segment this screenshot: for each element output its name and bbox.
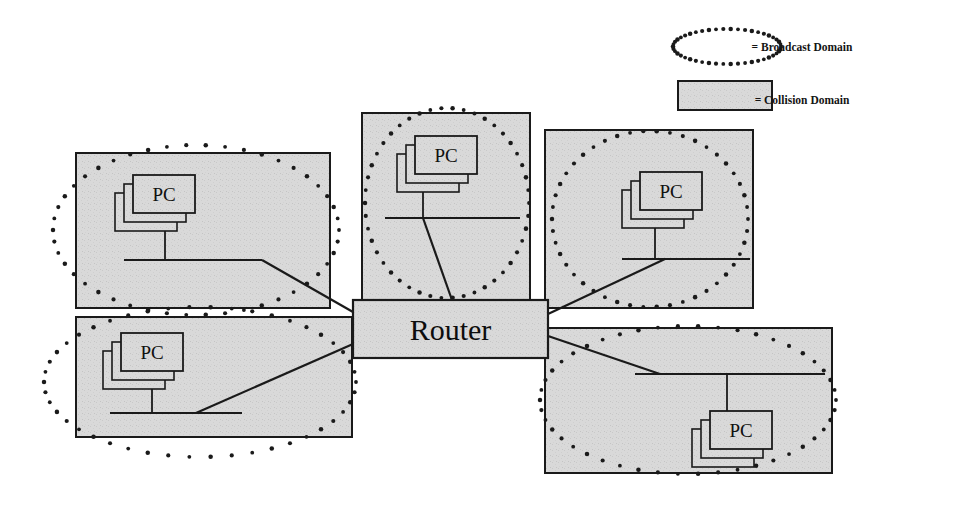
broadcast-domain-dot — [828, 418, 833, 423]
broadcast-domain-dot — [65, 341, 69, 345]
broadcast-domain-dot — [668, 131, 672, 135]
broadcast-domain-dot — [745, 205, 749, 209]
broadcast-domain-dot — [48, 400, 52, 404]
legend-item-label: = Broadcast Domain — [752, 41, 854, 53]
broadcast-domain-dot — [801, 351, 806, 356]
broadcast-domain-dot — [571, 351, 575, 355]
broadcast-domain-dot — [126, 447, 130, 451]
pc-label: PC — [659, 181, 682, 202]
broadcast-domain-dot — [745, 229, 749, 233]
broadcast-domain-dot — [700, 29, 704, 33]
broadcast-domain-dot — [208, 305, 213, 310]
broadcast-domain-dot — [407, 117, 411, 121]
broadcast-domain-dot — [223, 145, 227, 149]
broadcast-domain-dot — [112, 159, 116, 163]
broadcast-domain-dot — [166, 307, 170, 311]
broadcast-domain-dot — [304, 325, 308, 329]
broadcast-domain-dot — [375, 250, 379, 254]
broadcast-domain-dot — [681, 134, 685, 138]
broadcast-domain-dot — [370, 239, 375, 244]
broadcast-domain-dot — [63, 194, 68, 199]
broadcast-domain-dot — [693, 295, 698, 300]
broadcast-domain-dot — [738, 182, 742, 186]
broadcast-domain-dot — [756, 59, 760, 63]
broadcast-domain-dot — [696, 472, 701, 477]
broadcast-domain-dot — [716, 326, 720, 330]
broadcast-domain-dot — [260, 152, 265, 157]
broadcast-domain-dot — [551, 205, 555, 209]
broadcast-domain-dot — [728, 62, 733, 67]
broadcast-domain-dot — [592, 145, 596, 149]
broadcast-domain-dot — [636, 467, 641, 472]
broadcast-domain-dot — [77, 427, 81, 431]
broadcast-domain-dot — [56, 205, 60, 209]
broadcast-domain-dot — [554, 241, 558, 245]
broadcast-domain-dot — [656, 326, 660, 330]
network-segment-bottom-right: PC — [538, 324, 838, 476]
broadcast-domain-dot — [462, 108, 466, 112]
broadcast-domain-dot — [146, 148, 151, 153]
broadcast-domain-dot — [618, 332, 622, 336]
pc-icon: PC — [115, 175, 195, 231]
broadcast-domain-dot — [42, 380, 47, 385]
broadcast-domain-dot — [524, 175, 529, 180]
broadcast-domain-dot — [683, 33, 687, 37]
broadcast-domain-dot — [696, 324, 701, 329]
broadcast-domain-dot — [564, 263, 568, 267]
broadcast-domain-dot — [348, 400, 353, 405]
broadcast-domain-dot — [654, 129, 659, 134]
broadcast-domain-dot — [108, 319, 112, 323]
broadcast-domain-dot — [331, 341, 335, 345]
broadcast-domain-dot — [352, 390, 356, 394]
broadcast-domain-dot — [558, 182, 563, 187]
broadcast-domain-dot — [738, 252, 742, 256]
broadcast-domain-dot — [526, 188, 530, 192]
pc-icon: PC — [397, 136, 477, 192]
broadcast-domain-dot — [482, 285, 487, 290]
broadcast-domain-dot — [91, 435, 96, 440]
broadcast-domain-dot — [515, 250, 519, 254]
broadcast-domain-dot — [524, 226, 529, 231]
broadcast-domain-dot — [472, 111, 476, 115]
router-node[interactable]: Router — [353, 300, 548, 358]
broadcast-domain-dot — [681, 300, 685, 304]
router-layer: Router — [353, 300, 548, 358]
broadcast-domain-dot — [364, 188, 368, 192]
broadcast-domain-dot — [762, 57, 766, 61]
broadcast-domain-dot — [72, 184, 76, 188]
broadcast-domain-dot — [705, 145, 709, 149]
broadcast-domain-dot — [325, 262, 329, 266]
broadcast-domain-dot — [641, 305, 645, 309]
broadcast-domain-dot — [72, 272, 76, 276]
broadcast-domain-dot — [742, 240, 747, 245]
network-topology-diagram: PCPCPCPCPC Router = Broadcast Domain= Co… — [0, 0, 960, 507]
broadcast-domain-dot — [585, 452, 590, 457]
broadcast-domain-dot — [208, 455, 213, 460]
broadcast-domain-dot — [417, 111, 422, 116]
broadcast-domain-dot — [693, 139, 698, 144]
broadcast-domain-dot — [750, 60, 755, 65]
broadcast-domain-dot — [364, 214, 368, 218]
broadcast-domain-dot — [688, 57, 693, 62]
broadcast-domain-dot — [91, 325, 96, 330]
broadcast-domain-dot — [714, 62, 718, 66]
broadcast-domain-dot — [801, 444, 806, 449]
broadcast-domain-dot — [165, 145, 169, 149]
broadcast-domain-dot — [375, 152, 379, 156]
broadcast-domain-dot — [336, 239, 340, 243]
broadcast-domain-dot — [146, 450, 151, 455]
broadcast-domain-dot — [353, 370, 357, 374]
broadcast-domain-dot — [492, 123, 496, 127]
broadcast-domain-dot — [52, 217, 56, 221]
broadcast-domain-dot — [544, 418, 548, 422]
broadcast-domain-dot — [96, 290, 101, 295]
broadcast-domain-dot — [833, 388, 837, 392]
router-label: Router — [410, 313, 492, 346]
collision-domain-box[interactable] — [76, 153, 330, 308]
broadcast-domain-dot — [337, 228, 341, 232]
broadcast-domain-dot — [787, 452, 791, 456]
broadcast-domain-dot — [813, 360, 817, 364]
broadcast-domain-dot — [55, 350, 60, 355]
broadcast-domain-dot — [618, 464, 622, 468]
broadcast-domain-dot — [834, 398, 838, 402]
